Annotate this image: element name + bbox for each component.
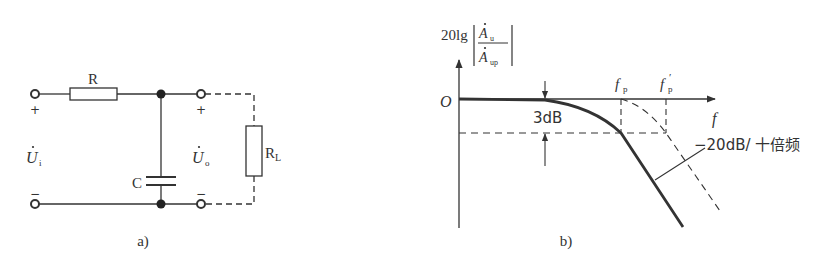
dot-accent <box>32 146 34 148</box>
response-curve-solid <box>459 99 683 227</box>
input-plus-sign: + <box>30 103 40 117</box>
svg-text:U: U <box>26 149 39 166</box>
svg-text:A: A <box>478 50 488 65</box>
junction-dot-bottom <box>157 200 166 209</box>
resistor-label: R <box>88 71 98 87</box>
caption-a: a) <box>137 233 149 250</box>
fp-label: f p <box>615 76 628 94</box>
svg-text:p: p <box>623 84 628 94</box>
output-plus-sign: + <box>196 103 206 117</box>
origin-label: O <box>440 93 452 110</box>
load-label: RL <box>265 145 281 163</box>
load-wire-bottom <box>205 176 254 204</box>
svg-text:f: f <box>660 76 666 92</box>
circuit-diagram <box>31 88 262 209</box>
y-axis-label: 20lg A u A up <box>441 23 512 67</box>
svg-text:p: p <box>668 84 673 94</box>
fp-prime-label: f ′ p <box>660 71 673 94</box>
output-minus-sign: − <box>196 187 206 201</box>
svg-text:20lg: 20lg <box>441 27 468 43</box>
dot-accent <box>484 47 486 49</box>
input-voltage-label: U i <box>26 146 42 168</box>
svg-text:o: o <box>205 158 210 168</box>
x-axis-label: f <box>712 110 719 128</box>
input-minus-sign: − <box>30 187 40 201</box>
output-terminal-plus <box>197 90 205 98</box>
input-terminal-minus <box>31 200 39 208</box>
svg-text:A: A <box>478 26 488 41</box>
output-voltage-label: U o <box>192 146 210 168</box>
input-terminal-plus <box>31 90 39 98</box>
dot-accent <box>484 23 486 25</box>
output-terminal-minus <box>197 200 205 208</box>
resistor-r <box>70 88 117 100</box>
svg-text:u: u <box>490 34 494 43</box>
svg-text:i: i <box>39 158 42 168</box>
bode-plot <box>459 60 720 228</box>
load-resistor-rl <box>246 126 262 176</box>
svg-text:f: f <box>615 76 621 92</box>
svg-text:up: up <box>490 58 498 67</box>
figure-canvas: R C RL + − + − U i U o a) 20lg <box>0 0 821 272</box>
slope-label: −20dB/ 十倍频 <box>694 136 800 154</box>
capacitor-label: C <box>132 175 142 191</box>
load-wire-top <box>205 94 254 126</box>
drop-3db-label: 3dB <box>533 109 562 127</box>
svg-text:U: U <box>192 149 205 166</box>
junction-dot-top <box>157 90 166 99</box>
dot-accent <box>198 146 200 148</box>
caption-b: b) <box>560 233 573 250</box>
svg-text:′: ′ <box>669 71 671 83</box>
